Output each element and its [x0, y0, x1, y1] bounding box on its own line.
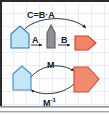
- bottom-border-rule-2: [0, 111, 109, 112]
- label-map-m-inverse: M-1: [43, 97, 56, 108]
- label-map-m: M: [47, 61, 55, 70]
- transformation-diagram: C=B·A A B M M-1: [0, 0, 109, 115]
- left-border-rule: [0, 0, 2, 107]
- label-map-m-inverse-base: M: [43, 98, 51, 108]
- label-map-m-inverse-exponent: -1: [51, 97, 56, 103]
- label-map-a: A: [32, 36, 39, 45]
- label-composition: C=B·A: [27, 11, 55, 20]
- label-map-b: B: [61, 36, 68, 45]
- top-border-rule: [0, 0, 109, 2]
